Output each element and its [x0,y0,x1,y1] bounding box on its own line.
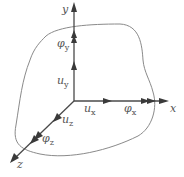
u-y-arrowhead [71,61,77,70]
y-axis-arrowhead [71,2,77,12]
phi-z-label: φz [42,132,54,147]
y-axis-label: y [61,3,69,16]
u-x-label: ux [84,102,96,117]
coordinate-diagram: y x z φy uy ux φx uz φz [0,0,184,177]
u-y-label: uy [57,74,69,89]
z-axis-label: z [16,158,23,171]
u-z-label: uz [62,113,73,128]
x-axis-label: x [170,102,177,115]
u-x-arrowhead [103,98,112,104]
x-axis-arrowhead [159,98,169,104]
phi-x-label: φx [124,102,137,117]
phi-y-label: φy [57,37,70,52]
y-axis [71,2,77,101]
